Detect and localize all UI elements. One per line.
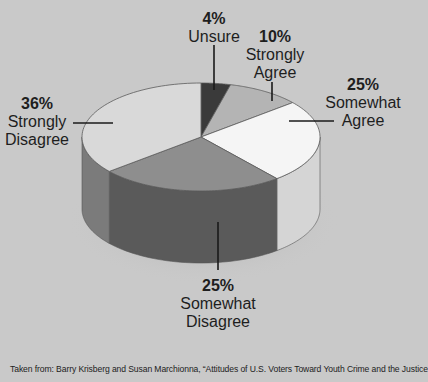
label-text: Disagree (176, 313, 260, 331)
label-text: Strongly (240, 46, 310, 64)
label-text: Strongly (2, 113, 72, 131)
label-text: Agree (240, 64, 310, 82)
label-somewhat-disagree: 25% Somewhat Disagree (176, 277, 260, 331)
label-pct: 10% (240, 28, 310, 46)
label-text: Somewhat (176, 295, 260, 313)
label-pct: 36% (2, 95, 72, 113)
label-text: Somewhat (322, 94, 404, 112)
label-text: Unsure (186, 28, 242, 46)
label-strongly-agree: 10% Strongly Agree (240, 28, 310, 82)
label-somewhat-agree: 25% Somewhat Agree (322, 76, 404, 130)
label-strongly-disagree: 36% Strongly Disagree (2, 95, 72, 149)
source-citation: Taken from: Barry Krisberg and Susan Mar… (10, 364, 410, 374)
label-text: Agree (322, 112, 404, 130)
label-unsure: 4% Unsure (186, 10, 242, 46)
label-pct: 25% (176, 277, 260, 295)
pie-tops (82, 83, 320, 191)
label-text: Disagree (2, 131, 72, 149)
label-pct: 4% (186, 10, 242, 28)
label-pct: 25% (322, 76, 404, 94)
